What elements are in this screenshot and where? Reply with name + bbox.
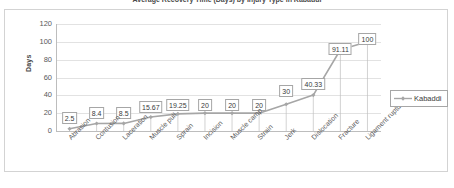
data-label: 40.33	[302, 78, 326, 90]
y-axis-tick-label: 60	[44, 74, 52, 82]
chart-container: Average Recovery Time (Days) by Injury T…	[0, 0, 454, 188]
plot-area: 020406080100120 2.58.48.515.6719.2520202…	[56, 24, 381, 131]
legend-label-kabaddi: Kabaddi	[414, 94, 442, 103]
y-axis-tick-label: 120	[39, 20, 52, 28]
chart-legend[interactable]: Kabaddi	[390, 90, 448, 107]
data-label: 20	[225, 99, 239, 111]
legend-line-marker-icon	[394, 95, 412, 102]
y-axis-tick-label: 40	[44, 92, 52, 100]
data-point-marker	[203, 111, 207, 115]
data-label: 91.11	[329, 43, 352, 55]
data-label: 100	[359, 33, 377, 45]
data-point-marker	[95, 121, 99, 125]
y-axis-title: Days	[25, 54, 32, 72]
y-axis-tick-label: 100	[39, 38, 52, 46]
data-label: 20	[198, 99, 212, 111]
chart-plot-frame: Days 020406080100120 2.58.48.515.6719.25…	[4, 9, 448, 172]
data-label: 15.67	[139, 101, 163, 113]
y-axis-tick-label: 0	[48, 127, 52, 135]
y-axis-tick-label: 80	[44, 56, 52, 64]
data-point-marker	[230, 111, 234, 115]
data-label: 19.25	[166, 99, 190, 111]
data-label: 8.4	[89, 107, 105, 119]
data-point-marker	[122, 121, 126, 125]
data-point-marker	[284, 102, 288, 106]
chart-title: Average Recovery Time (Days) by Injury T…	[0, 0, 454, 5]
data-label: 2.5	[62, 112, 78, 124]
data-label: 30	[279, 85, 293, 97]
y-axis-tick-label: 20	[44, 109, 52, 117]
